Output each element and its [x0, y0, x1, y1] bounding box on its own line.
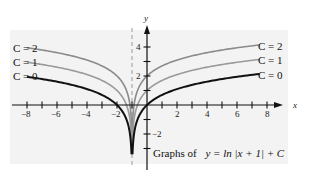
curve-label-left-c2: C = 2 — [13, 42, 38, 54]
caption-formula: y = ln |x + 1| + C — [204, 147, 284, 159]
y-tick-label: 2 — [136, 71, 141, 81]
x-tick-label: 6 — [235, 109, 240, 119]
curve-label-right-c0: C = 0 — [258, 69, 283, 81]
x-tick-label: −8 — [21, 109, 31, 119]
curve-label-right-c2: C = 2 — [258, 40, 283, 52]
caption-prefix: Graphs of — [153, 147, 197, 159]
y-axis-arrow-icon — [144, 25, 150, 34]
chart: x y −8 −6 −4 −2 2 4 6 8 4 2 −2 C = 2 C =… — [0, 0, 312, 172]
x-tick-label: −6 — [51, 109, 61, 119]
x-tick-label: 2 — [175, 109, 180, 119]
plot-panel — [10, 30, 288, 164]
y-axis-label: y — [143, 13, 148, 23]
y-tick-label: −2 — [152, 129, 162, 139]
curve-label-right-c1: C = 1 — [258, 54, 283, 66]
x-tick-label: −4 — [81, 109, 91, 119]
x-axis-label: x — [292, 100, 297, 110]
curve-label-left-c1: C = 1 — [13, 56, 38, 68]
y-tick-label: 4 — [136, 42, 141, 52]
x-tick-label: −2 — [111, 109, 121, 119]
chart-caption: Graphs of y = ln |x + 1| + C — [153, 147, 285, 159]
x-tick-label: 8 — [265, 109, 270, 119]
curve-label-left-c0: C = 0 — [13, 70, 38, 82]
x-tick-label: 4 — [205, 109, 210, 119]
